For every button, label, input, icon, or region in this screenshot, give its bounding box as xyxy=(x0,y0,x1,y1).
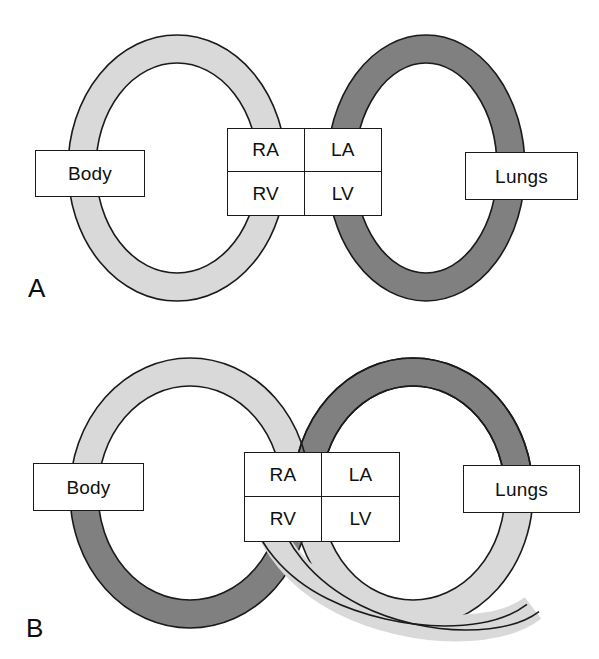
left-atrium-cell: LA xyxy=(305,129,382,172)
panel-a: Body Lungs RA LA RV LV A xyxy=(0,0,599,330)
heart-chambers-grid: RA LA RV LV xyxy=(227,128,382,216)
right-ventricle-label: RV xyxy=(253,183,279,205)
heart-chambers-grid: RA LA RV LV xyxy=(244,452,400,542)
left-ventricle-label: LV xyxy=(332,183,354,205)
right-ventricle-label: RV xyxy=(270,508,296,530)
panel-b: Body Lungs RA LA RV LV B xyxy=(0,330,599,659)
left-atrium-label: LA xyxy=(331,139,355,161)
body-box-label: Body xyxy=(66,478,110,497)
lungs-box: Lungs xyxy=(465,152,578,200)
right-ventricle-cell: RV xyxy=(245,497,322,541)
body-box: Body xyxy=(35,150,145,197)
right-atrium-label: RA xyxy=(252,139,279,161)
right-ventricle-cell: RV xyxy=(228,172,305,215)
body-box-label: Body xyxy=(68,164,112,183)
lungs-box-label: Lungs xyxy=(495,480,548,499)
right-atrium-label: RA xyxy=(270,464,297,486)
left-ventricle-cell: LV xyxy=(305,172,382,215)
circulation-figure: Body Lungs RA LA RV LV A xyxy=(0,0,599,659)
left-atrium-cell: LA xyxy=(322,453,399,497)
left-ventricle-label: LV xyxy=(349,508,371,530)
body-box: Body xyxy=(33,463,144,511)
left-atrium-label: LA xyxy=(349,464,373,486)
panel-a-letter: A xyxy=(28,275,45,301)
lungs-box-label: Lungs xyxy=(495,167,548,186)
right-atrium-cell: RA xyxy=(228,129,305,172)
lungs-box: Lungs xyxy=(463,465,580,513)
left-ventricle-cell: LV xyxy=(322,497,399,541)
right-atrium-cell: RA xyxy=(245,453,322,497)
panel-b-letter: B xyxy=(26,615,43,641)
